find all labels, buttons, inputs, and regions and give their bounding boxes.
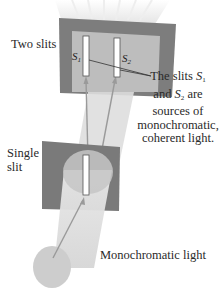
callout-line-5: coherent light.	[135, 132, 220, 146]
callout-line-2: and S2 are	[135, 88, 220, 106]
label-s1: S1	[72, 50, 81, 64]
slit-s2	[114, 38, 120, 77]
slit-s1	[83, 36, 89, 76]
callout-line-3: sources of	[135, 105, 220, 119]
callout-text: The slits S1 and S2 are sources of monoc…	[135, 70, 220, 146]
callout-line-4: monochromatic,	[135, 119, 220, 133]
label-monochromatic-light: Monochromatic light	[100, 248, 206, 262]
label-two-slits: Two slits	[11, 37, 56, 51]
label-s2: S2	[122, 52, 131, 66]
callout-line-1: The slits S1	[135, 70, 220, 88]
single-slit	[83, 155, 89, 195]
label-single-slit: Single slit	[7, 146, 39, 174]
